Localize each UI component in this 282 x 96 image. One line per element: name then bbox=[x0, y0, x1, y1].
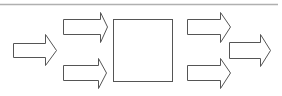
right-arrow-icon bbox=[230, 35, 271, 67]
flow-diagram bbox=[0, 0, 282, 96]
process-box bbox=[114, 20, 173, 82]
right-arrow-icon bbox=[188, 13, 231, 43]
right-arrow-icon bbox=[14, 35, 57, 66]
right-arrow-icon bbox=[64, 13, 108, 43]
right-arrow-icon bbox=[64, 59, 107, 89]
right-arrow-icon bbox=[188, 59, 231, 89]
